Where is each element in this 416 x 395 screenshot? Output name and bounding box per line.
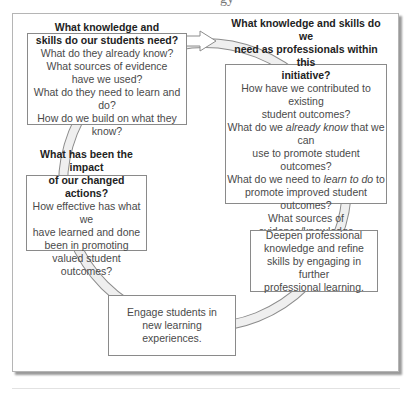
box-professional-needs: What knowledge and skills do we need as …: [225, 64, 387, 204]
box-line: What sources of evidence: [28, 60, 186, 73]
box-impact: What has been the impact of our changed …: [26, 175, 147, 251]
box-line: What do we need to learn to do to: [226, 173, 386, 186]
box-title: What knowledge and skills do we: [226, 17, 386, 43]
box-title: skills do our students need?: [28, 34, 186, 47]
box-title: of our changed actions?: [27, 174, 146, 200]
box-line: What do they already know?: [28, 47, 186, 60]
box-line: valued student outcomes?: [27, 252, 146, 278]
box-line: have learned and done: [27, 226, 146, 239]
box-title: initiative?: [226, 69, 386, 82]
box-line: Engage students in: [109, 306, 235, 319]
box-line: What do we already know that we can: [226, 121, 386, 147]
box-line: How do we build on what they know?: [28, 112, 186, 138]
box-title: What has been the impact: [27, 148, 146, 174]
box-line: skills by engaging in further: [251, 255, 377, 281]
box-title: What knowledge and: [28, 21, 186, 34]
divider-rule: [12, 388, 400, 389]
box-line: experiences.: [109, 332, 235, 345]
box-line: use to promote student outcomes?: [226, 147, 386, 173]
box-line: How have we contributed to existing: [226, 82, 386, 108]
box-line: student outcomes?: [226, 108, 386, 121]
emphasis: learn to do: [324, 173, 374, 185]
box-line: How effective has what we: [27, 200, 146, 226]
box-line: What do they need to learn and do?: [28, 86, 186, 112]
box-line: professional learning.: [251, 281, 377, 294]
box-student-needs: What knowledge and skills do our student…: [27, 33, 187, 125]
box-engage-students: Engage students in new learning experien…: [108, 295, 236, 356]
emphasis: already know: [286, 121, 348, 133]
box-line: Deepen professional: [251, 229, 377, 242]
box-deepen-learning: Deepen professional knowledge and refine…: [250, 230, 378, 292]
box-line: knowledge and refine: [251, 242, 377, 255]
box-line: been in promoting: [27, 239, 146, 252]
box-title: need as professionals within this: [226, 43, 386, 69]
box-line: new learning: [109, 319, 235, 332]
box-line: promote improved student outcomes?: [226, 186, 386, 212]
box-line: have we used?: [28, 73, 186, 86]
